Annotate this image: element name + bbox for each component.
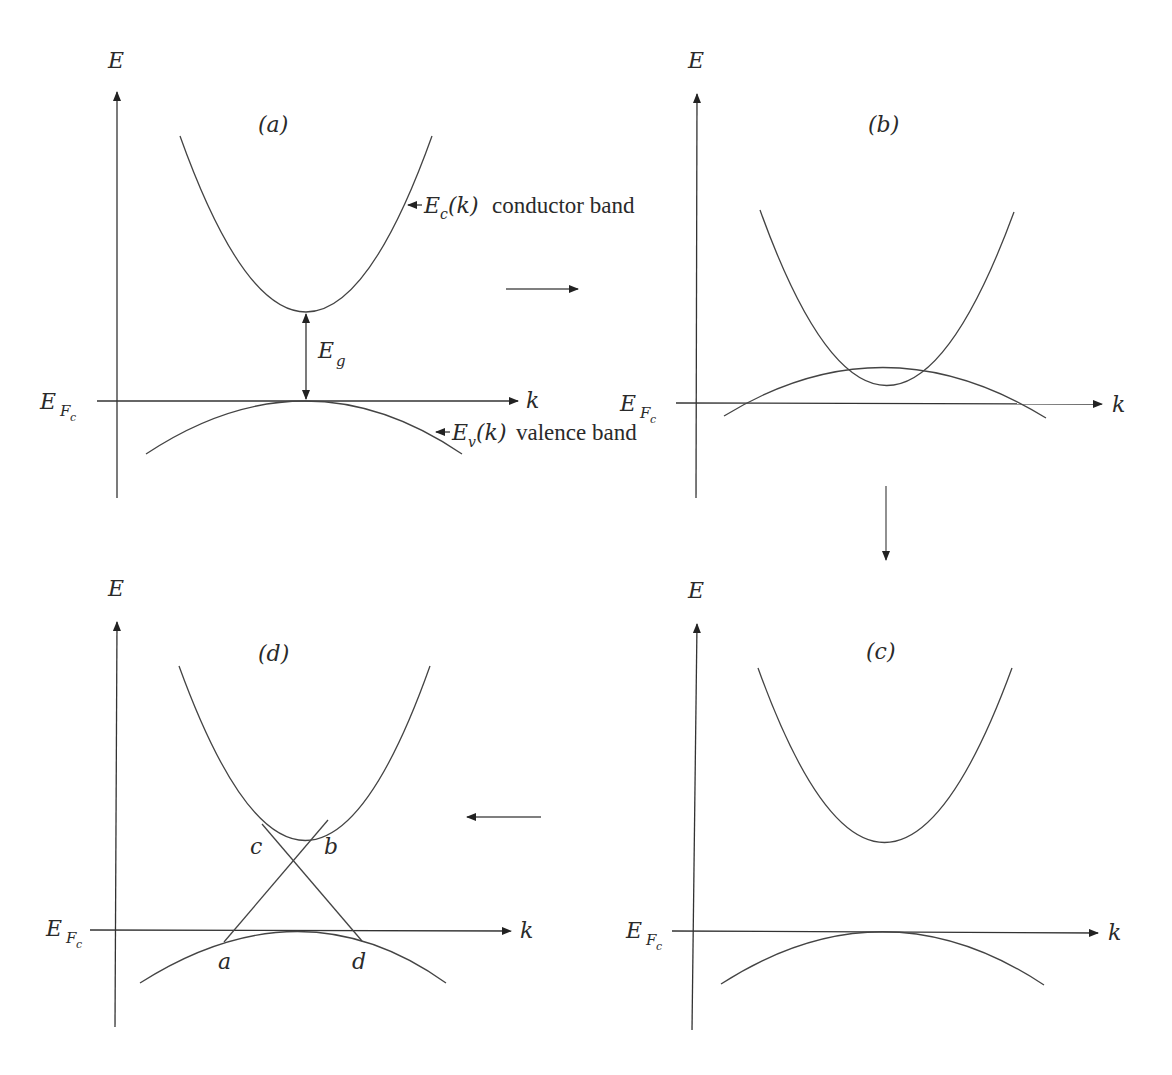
point-label-d: d — [352, 949, 366, 974]
panel-c: E k E F c (c) — [625, 578, 1121, 1030]
svg-text:E: E — [423, 193, 440, 218]
svg-text:(k): (k) — [448, 193, 479, 218]
point-label-c: c — [250, 834, 262, 859]
svg-text:c: c — [440, 206, 448, 222]
band-diagram-figure: E k E F c (a) E g E c (k) conductor band — [0, 0, 1172, 1075]
panel-a: E k E F c (a) E g E c (k) conductor band — [39, 48, 637, 498]
fermi-level-label: E F c — [45, 916, 82, 951]
valence-band-curve — [724, 367, 1046, 418]
k-axis-label: k — [1112, 392, 1125, 417]
e-axis-icon — [692, 624, 697, 1030]
svg-text:E: E — [619, 391, 636, 416]
k-axis-label: k — [526, 388, 539, 413]
svg-text:g: g — [336, 352, 346, 370]
e-axis-label: E — [107, 576, 124, 601]
k-axis-label: k — [1108, 920, 1121, 945]
valence-band-curve — [140, 932, 446, 984]
svg-text:valence band: valence band — [516, 420, 637, 445]
e-axis-icon — [696, 94, 697, 498]
conduction-band-annotation: E c (k) conductor band — [423, 193, 635, 222]
valence-band-annotation: E v (k) valence band — [451, 420, 637, 450]
panel-d: E k E F c (d) c b a d — [45, 576, 533, 1027]
svg-text:E: E — [45, 916, 62, 941]
k-axis-icon — [676, 403, 1102, 404]
svg-text:c: c — [650, 413, 656, 426]
fermi-level-label: E F c — [39, 389, 76, 424]
conduction-band-curve — [180, 136, 432, 312]
e-axis-label: E — [107, 48, 124, 73]
fermi-level-label: E F c — [625, 918, 662, 953]
point-label-b: b — [324, 834, 338, 859]
svg-text:v: v — [468, 434, 476, 450]
panel-c-label: (c) — [866, 639, 896, 664]
crossing-line-cd — [262, 824, 362, 941]
svg-text:c: c — [656, 940, 662, 953]
svg-text:E: E — [317, 338, 334, 363]
svg-text:conductor band: conductor band — [492, 193, 635, 218]
valence-band-curve — [146, 401, 462, 454]
svg-text:E: E — [625, 918, 642, 943]
panel-b: E k E F c (b) — [619, 48, 1125, 498]
crossing-line-ab — [224, 820, 328, 942]
e-axis-label: E — [687, 48, 704, 73]
svg-text:c: c — [76, 938, 82, 951]
svg-text:(k): (k) — [476, 420, 507, 445]
conduction-band-curve — [760, 210, 1014, 386]
band-gap-label: E g — [317, 338, 346, 370]
panel-a-label: (a) — [258, 112, 288, 137]
conduction-band-curve — [179, 666, 430, 841]
svg-text:c: c — [70, 411, 76, 424]
e-axis-icon — [115, 622, 117, 1027]
conduction-band-curve — [758, 668, 1012, 843]
valence-band-curve — [721, 932, 1044, 985]
svg-text:E: E — [451, 420, 468, 445]
e-axis-label: E — [687, 578, 704, 603]
svg-text:E: E — [39, 389, 56, 414]
k-axis-icon — [90, 930, 511, 931]
panel-b-label: (b) — [868, 112, 899, 137]
k-axis-label: k — [520, 918, 533, 943]
panel-d-label: (d) — [258, 641, 289, 666]
point-label-a: a — [218, 949, 231, 974]
